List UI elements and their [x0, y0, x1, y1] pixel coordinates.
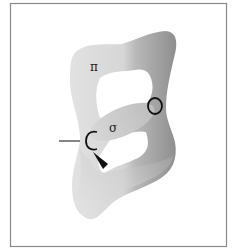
sigma-label: σ: [109, 121, 117, 135]
pi-label: π: [90, 60, 98, 74]
carbonyl-orbital-diagram: π σ C O: [0, 0, 232, 250]
